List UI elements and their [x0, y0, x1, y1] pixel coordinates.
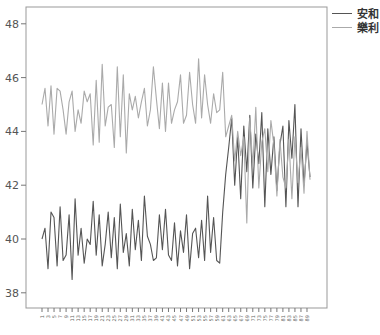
series-lines — [42, 59, 310, 280]
legend-swatch-anhe — [332, 13, 352, 14]
series-line-leli — [42, 59, 310, 223]
y-tick-label: 42 — [5, 179, 19, 192]
y-tick-label: 44 — [5, 125, 19, 138]
y-axis: 384042444648 — [5, 18, 26, 300]
y-tick-label: 46 — [5, 72, 19, 85]
y-tick-label: 40 — [5, 233, 19, 246]
x-axis: 1357911131517192123252729313335373941434… — [39, 308, 310, 321]
y-tick-label: 48 — [5, 18, 19, 31]
legend-label-leli: 樂利 — [357, 19, 379, 35]
line-chart: 384042444648 135791113151719212325272931… — [0, 0, 380, 335]
y-tick-label: 38 — [5, 287, 19, 300]
legend-item-anhe: 安和 — [332, 6, 379, 20]
legend-swatch-leli — [332, 27, 352, 28]
x-tick-label: 89 — [304, 315, 310, 321]
legend: 安和 樂利 — [332, 6, 379, 34]
legend-item-leli: 樂利 — [332, 20, 379, 34]
